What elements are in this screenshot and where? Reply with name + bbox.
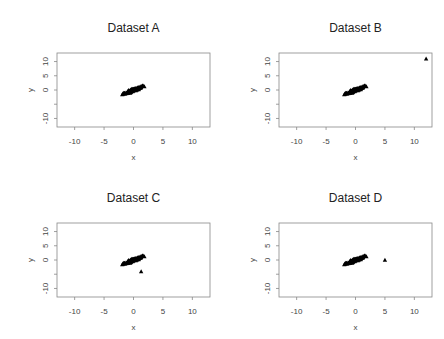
outlier-point: [383, 258, 387, 262]
x-tick-label: 5: [383, 137, 388, 146]
x-axis-label: x: [354, 323, 358, 332]
chart-title: Dataset B: [329, 21, 382, 35]
x-tick-label: 0: [353, 137, 358, 146]
chart-title: Dataset A: [107, 21, 159, 35]
outlier-point: [139, 269, 143, 273]
scatter-grid: Dataset A-10-50510-100510xyDataset B-10-…: [0, 0, 444, 339]
x-tick-label: -10: [291, 137, 303, 146]
x-tick-label: 0: [131, 307, 136, 316]
y-tick-label: 5: [263, 243, 272, 248]
x-tick-label: 10: [410, 307, 419, 316]
y-axis-label: y: [26, 258, 35, 262]
chart-title: Dataset D: [329, 191, 383, 205]
panel-a: Dataset A-10-50510-100510xy: [26, 21, 210, 162]
x-tick-label: -5: [323, 137, 331, 146]
x-tick-label: -5: [101, 307, 109, 316]
y-tick-label: 10: [41, 57, 50, 66]
x-tick-label: 5: [161, 137, 166, 146]
y-tick-label: 0: [41, 87, 50, 92]
y-tick-label: -10: [263, 112, 272, 124]
x-tick-label: -10: [69, 137, 81, 146]
y-tick-label: 10: [41, 227, 50, 236]
x-tick-label: 5: [383, 307, 388, 316]
x-tick-label: 0: [353, 307, 358, 316]
x-tick-label: 10: [188, 307, 197, 316]
y-axis-label: y: [248, 88, 257, 92]
y-tick-label: 0: [263, 87, 272, 92]
x-axis-label: x: [132, 323, 136, 332]
x-tick-label: -5: [323, 307, 331, 316]
panel-c: Dataset C-10-50510-100510xy: [26, 191, 210, 332]
chart-title: Dataset C: [107, 191, 161, 205]
x-tick-label: 0: [131, 137, 136, 146]
y-tick-label: -10: [41, 112, 50, 124]
y-tick-label: 0: [263, 257, 272, 262]
y-axis-label: y: [26, 88, 35, 92]
y-tick-label: 5: [41, 243, 50, 248]
x-axis-label: x: [354, 153, 358, 162]
x-tick-label: 10: [188, 137, 197, 146]
outlier-point: [424, 56, 428, 60]
y-tick-label: -10: [41, 282, 50, 294]
y-tick-label: 5: [263, 73, 272, 78]
y-tick-label: -10: [263, 282, 272, 294]
y-tick-label: 0: [41, 257, 50, 262]
y-tick-label: 10: [263, 57, 272, 66]
panel-b: Dataset B-10-50510-100510xy: [248, 21, 432, 162]
x-tick-label: -10: [69, 307, 81, 316]
y-tick-label: 10: [263, 227, 272, 236]
x-tick-label: -10: [291, 307, 303, 316]
y-tick-label: 5: [41, 73, 50, 78]
x-tick-label: 5: [161, 307, 166, 316]
x-axis-label: x: [132, 153, 136, 162]
x-tick-label: -5: [101, 137, 109, 146]
x-tick-label: 10: [410, 137, 419, 146]
y-axis-label: y: [248, 258, 257, 262]
panel-d: Dataset D-10-50510-100510xy: [248, 191, 432, 332]
